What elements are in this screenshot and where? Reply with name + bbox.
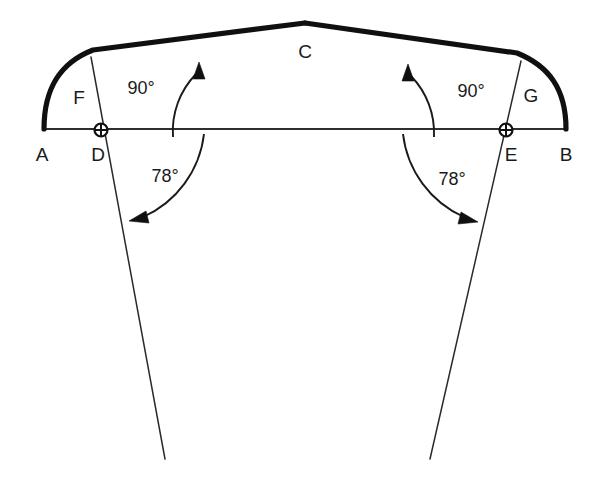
ray-through-E (430, 61, 521, 459)
point-label-E: E (505, 144, 518, 165)
arrowhead-right-90-icon (402, 64, 414, 81)
arrowhead-left-78-icon (129, 211, 149, 223)
arrowhead-right-78-icon (458, 212, 478, 224)
angle-label-left-90: 90° (127, 78, 154, 98)
geometry-figure: A D E B C F G 90° 90° 78° 78° (0, 0, 597, 483)
station-marker-E (500, 124, 513, 137)
arrowhead-left-90-icon (193, 62, 205, 79)
point-label-B: B (560, 144, 573, 165)
angle-label-right-78: 78° (438, 169, 465, 189)
angle-label-left-78: 78° (151, 166, 178, 186)
angle-arc-right-90 (411, 76, 434, 137)
point-label-D: D (91, 144, 105, 165)
diagram-canvas: A D E B C F G 90° 90° 78° 78° (0, 0, 597, 483)
station-marker-D (95, 124, 108, 137)
angle-label-right-90: 90° (457, 81, 484, 101)
angle-arc-left-90 (173, 74, 196, 137)
ray-through-D (91, 57, 165, 459)
point-label-G: G (524, 85, 539, 106)
arc-right-CB (305, 23, 566, 129)
point-label-F: F (73, 87, 85, 108)
point-label-A: A (36, 144, 49, 165)
point-label-C: C (298, 41, 312, 62)
